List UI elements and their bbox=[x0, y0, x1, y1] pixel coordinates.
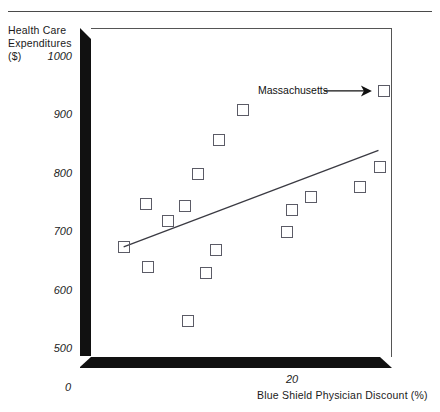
y-tick-label-900: 900 bbox=[26, 108, 72, 120]
x-axis-slab bbox=[80, 357, 392, 368]
scatter-point bbox=[286, 204, 298, 216]
plot-frame-right bbox=[391, 28, 392, 358]
y-axis-title-line-2: Expenditures bbox=[8, 37, 72, 50]
chart-figure: Health Care Expenditures ($) 1000 900 80… bbox=[0, 0, 440, 412]
scatter-point bbox=[281, 226, 293, 238]
plot-frame-top bbox=[91, 28, 392, 29]
y-tick-label-600: 600 bbox=[26, 284, 72, 296]
massachusetts-arrow-icon bbox=[324, 85, 372, 96]
scatter-point bbox=[213, 134, 225, 146]
scatter-point bbox=[200, 267, 212, 279]
scatter-point-massachusetts bbox=[378, 85, 390, 97]
y-tick-label-800: 800 bbox=[26, 167, 72, 179]
y-axis-title-line-1: Health Care bbox=[8, 24, 72, 37]
scatter-point bbox=[140, 198, 152, 210]
scatter-point bbox=[354, 181, 366, 193]
x-axis-end-bevel bbox=[380, 357, 392, 368]
axis-corner-notch bbox=[80, 356, 92, 367]
scatter-point bbox=[179, 200, 191, 212]
scatter-point bbox=[182, 315, 194, 327]
regression-trendline bbox=[124, 150, 379, 247]
y-axis-slab bbox=[80, 28, 91, 368]
y-tick-label-1000: 1000 bbox=[26, 50, 72, 62]
y-axis-bevel bbox=[80, 28, 91, 39]
top-divider-rule bbox=[8, 11, 432, 12]
scatter-point bbox=[192, 168, 204, 180]
scatter-point bbox=[305, 191, 317, 203]
scatter-point bbox=[237, 104, 249, 116]
y-tick-label-700: 700 bbox=[26, 225, 72, 237]
massachusetts-annotation-label: Massachusetts bbox=[258, 84, 328, 96]
scatter-point bbox=[118, 241, 130, 253]
y-tick-label-500: 500 bbox=[26, 342, 72, 354]
scatter-point bbox=[162, 215, 174, 227]
x-tick-label-20: 20 bbox=[272, 373, 312, 385]
x-axis-title: Blue Shield Physician Discount (%) bbox=[257, 389, 428, 401]
origin-tick-label: 0 bbox=[48, 381, 88, 393]
scatter-point bbox=[210, 244, 222, 256]
scatter-point bbox=[142, 261, 154, 273]
scatter-point bbox=[374, 161, 386, 173]
